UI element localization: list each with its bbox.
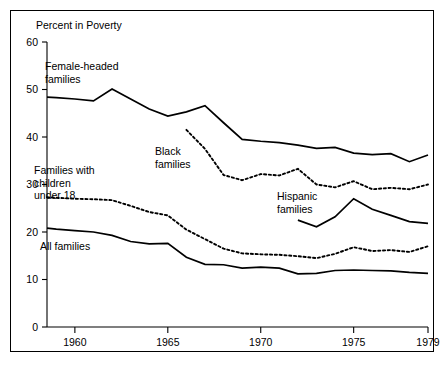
y-tick-label: 50: [26, 83, 38, 95]
series-annotation-families-with: Families with: [34, 164, 95, 176]
x-tick-label: 1965: [156, 336, 180, 348]
series-annotation-female-headed: families: [45, 73, 81, 85]
series-annotation-all-families: All families: [40, 240, 90, 252]
x-axis: 19601965197019751979: [47, 327, 440, 348]
x-tick-label: 1975: [342, 336, 366, 348]
series-line-female-headed-families: Female-headed families: [47, 89, 428, 162]
x-tick-label: 1960: [63, 336, 87, 348]
series-annotation-hispanic: Hispanic: [277, 190, 317, 202]
series-line-black-families: Black families: [186, 130, 428, 189]
series-annotation-black: Black: [155, 145, 181, 157]
series-annotation-families-with: under 18: [34, 189, 76, 201]
y-tick-label: 20: [26, 226, 38, 238]
y-tick-label: 40: [26, 131, 38, 143]
chart-figure: Percent in Poverty 0102030405060 1960196…: [0, 0, 444, 371]
series-annotation-black: families: [155, 158, 191, 170]
y-tick-label: 10: [26, 273, 38, 285]
series-annotation-female-headed: Female-headed: [45, 60, 119, 72]
x-axis-tick-labels: 19601965197019751979: [63, 336, 440, 348]
y-tick-label: 60: [26, 36, 38, 48]
y-tick-label: 0: [32, 321, 38, 333]
series-line-hispanic-families: Hispanic families: [298, 199, 428, 227]
axis-title-group: Percent in Poverty: [36, 19, 123, 31]
series-annotation-families-with: children: [34, 177, 71, 189]
poverty-line-chart: Percent in Poverty 0102030405060 1960196…: [0, 0, 444, 371]
series-annotations-group: Female-headedfamiliesBlackfamiliesFamili…: [34, 60, 317, 252]
series-line-families-with-children-under-18: Families with children under 18: [47, 197, 428, 258]
data-series-group: Female-headed familiesBlack familiesFami…: [47, 89, 428, 274]
series-annotation-hispanic: families: [277, 203, 313, 215]
chart-axis-title: Percent in Poverty: [36, 19, 123, 31]
x-axis-ticks: [75, 327, 428, 333]
x-tick-label: 1979: [416, 336, 440, 348]
x-tick-label: 1970: [249, 336, 273, 348]
